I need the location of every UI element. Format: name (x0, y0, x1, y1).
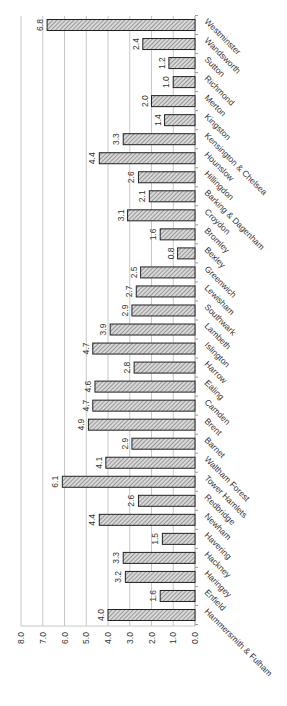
tick-label: 0.0 (190, 632, 200, 644)
data-label: 3.9 (98, 323, 108, 335)
bar (136, 286, 195, 297)
bar (149, 191, 195, 202)
bar (134, 362, 195, 373)
data-label: 2.7 (124, 285, 134, 297)
data-label: 6.1 (50, 476, 60, 488)
data-label: 1.4 (153, 114, 163, 126)
data-label: 2.6 (126, 495, 136, 507)
data-label: 2.4 (131, 38, 141, 50)
data-label: 4.7 (81, 342, 91, 354)
data-label: 4.6 (83, 380, 93, 392)
data-label: 1.0 (161, 76, 171, 88)
data-label: 2.6 (126, 171, 136, 183)
data-label: 2.0 (140, 95, 150, 107)
bar (47, 20, 195, 31)
data-label: 3.3 (111, 552, 121, 564)
data-label: 2.8 (122, 361, 132, 373)
data-label: 6.8 (35, 19, 45, 31)
bar (93, 400, 195, 411)
data-label: 3.2 (113, 571, 123, 583)
bar (106, 457, 195, 468)
tick-label: 2.0 (147, 632, 157, 644)
data-label: 4.9 (76, 419, 86, 431)
bar (128, 210, 195, 221)
tick-label: 4.0 (103, 632, 113, 644)
category-label: Hammersmith & Fulham (203, 606, 275, 678)
tick-label: 3.0 (125, 632, 135, 644)
bar (152, 96, 196, 107)
bar (110, 324, 195, 335)
data-label: 4.7 (81, 399, 91, 411)
bar (132, 305, 195, 316)
data-label: 4.0 (96, 609, 106, 621)
data-label: 1.5 (150, 533, 160, 545)
data-label: 4.4 (87, 514, 97, 526)
data-label: 3.1 (116, 209, 126, 221)
bar (88, 419, 195, 430)
data-label: 0.8 (166, 247, 176, 259)
tick-label: 1.0 (168, 632, 178, 644)
data-label: 3.3 (111, 133, 121, 145)
bar (165, 115, 195, 126)
data-label: 4.1 (94, 457, 104, 469)
data-label: 2.9 (120, 304, 130, 316)
tick-label: 8.0 (16, 632, 26, 644)
bar (125, 571, 195, 582)
tick-label: 7.0 (38, 632, 48, 644)
bar (162, 533, 195, 544)
bar (138, 172, 195, 183)
bar (123, 134, 195, 145)
data-label: 4.4 (87, 152, 97, 164)
tick-label: 5.0 (81, 632, 91, 644)
bar (93, 343, 195, 354)
bar (173, 77, 195, 88)
data-label: 1.6 (148, 590, 158, 602)
category-labels: Hammersmith & FulhamEnfieldHaringeyHackn… (203, 16, 275, 678)
bar (138, 495, 195, 506)
bar-chart: 0.01.02.03.04.05.06.07.08.0 4.01.63.23.3… (0, 0, 287, 706)
bar (99, 514, 195, 525)
bar (62, 476, 195, 487)
data-labels: 4.01.63.23.31.54.42.66.14.12.94.94.74.62… (35, 19, 176, 621)
bar (99, 153, 195, 164)
data-label: 2.1 (137, 190, 147, 202)
bar (169, 58, 195, 69)
data-label: 1.6 (148, 228, 158, 240)
bar (123, 552, 195, 563)
bar (160, 590, 195, 601)
bar (132, 438, 195, 449)
bar (143, 39, 195, 50)
bar (141, 267, 195, 278)
bar (95, 381, 195, 392)
tick-label: 6.0 (60, 632, 70, 644)
data-label: 2.5 (129, 266, 139, 278)
data-label: 2.9 (120, 438, 130, 450)
bar (108, 610, 195, 621)
bar (178, 248, 195, 259)
data-label: 1.2 (157, 57, 167, 69)
bar (160, 229, 195, 240)
